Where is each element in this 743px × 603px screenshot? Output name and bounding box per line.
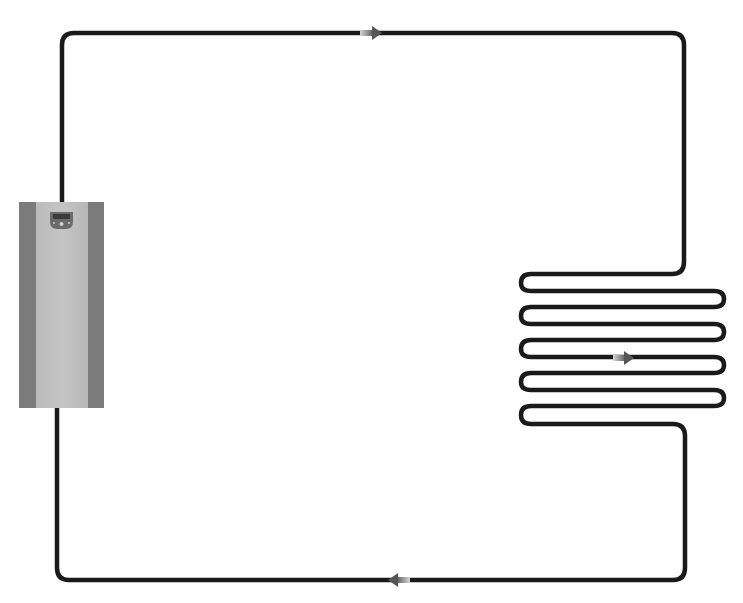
flow-arrow-coil — [613, 351, 634, 365]
supply-pipe — [57, 33, 724, 580]
boiler — [19, 202, 104, 408]
flow-arrow-top — [360, 26, 382, 40]
boiler-left-panel — [19, 202, 36, 408]
boiler-knob-icon — [60, 222, 64, 226]
heating-circuit-diagram — [0, 0, 743, 603]
flow-arrow-bottom — [388, 573, 410, 587]
boiler-display — [53, 214, 70, 219]
boiler-right-panel — [88, 202, 104, 408]
